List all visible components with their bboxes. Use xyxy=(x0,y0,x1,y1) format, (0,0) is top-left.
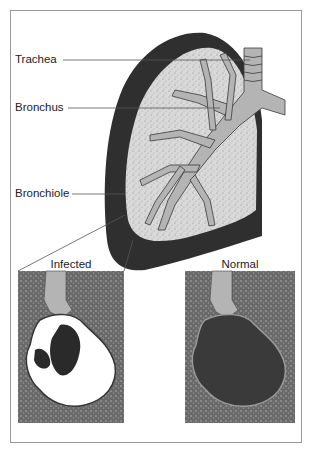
label-trachea: Trachea xyxy=(15,54,57,66)
caption-infected: Infected xyxy=(18,259,124,271)
infected-inset xyxy=(18,271,124,423)
normal-inset xyxy=(185,271,295,423)
caption-normal: Normal xyxy=(185,259,295,271)
lung-illustration xyxy=(0,0,312,451)
label-bronchus: Bronchus xyxy=(15,102,64,114)
lung-shape xyxy=(105,33,285,271)
label-bronchiole: Bronchiole xyxy=(15,188,69,200)
